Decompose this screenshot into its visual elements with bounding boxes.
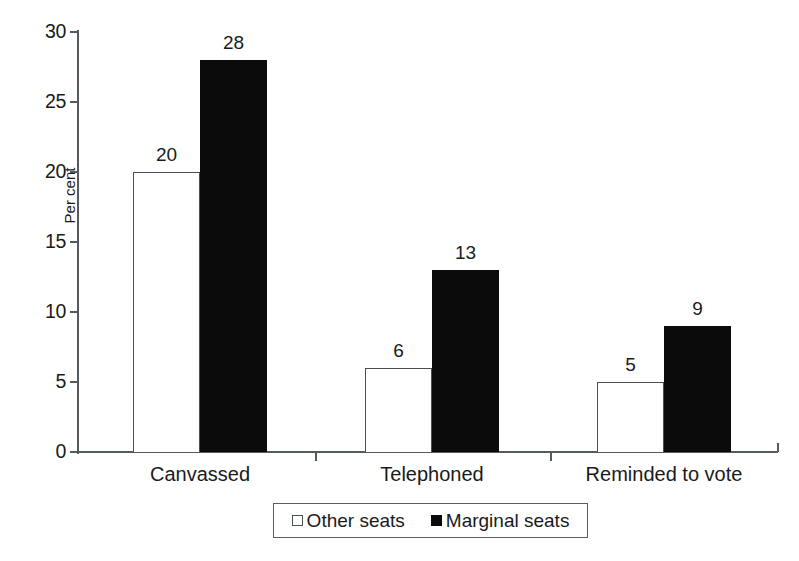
legend-label-other-seats: Other seats bbox=[307, 511, 405, 530]
bar-other-seats bbox=[365, 368, 432, 452]
chart-legend: Other seats Marginal seats bbox=[273, 503, 588, 538]
x-axis-category-label: Canvassed bbox=[70, 464, 330, 484]
y-axis-tick-label: 15 bbox=[26, 232, 66, 252]
y-axis-tick bbox=[70, 31, 78, 33]
y-axis-tick bbox=[70, 101, 78, 103]
y-axis-tick bbox=[70, 451, 78, 453]
legend-label-marginal-seats: Marginal seats bbox=[446, 511, 570, 530]
legend-item-other-seats: Other seats bbox=[292, 511, 405, 530]
y-axis-tick-label: 5 bbox=[26, 372, 66, 392]
y-axis-tick-label: 20 bbox=[26, 162, 66, 182]
y-axis-tick-label: 30 bbox=[26, 22, 66, 42]
y-axis-tick bbox=[70, 381, 78, 383]
open-square-marker-icon bbox=[292, 515, 303, 526]
x-axis-category-label: Telephoned bbox=[302, 464, 562, 484]
category-separator-tick bbox=[315, 452, 317, 461]
bar-value-label: 9 bbox=[654, 299, 741, 318]
bar-value-label: 6 bbox=[355, 341, 442, 360]
bar-other-seats bbox=[597, 382, 664, 452]
y-axis-tick bbox=[70, 171, 78, 173]
y-axis-tick-label: 0 bbox=[26, 442, 66, 462]
bar-marginal-seats bbox=[200, 60, 267, 452]
category-separator-tick bbox=[550, 452, 552, 461]
y-axis-tick-label: 10 bbox=[26, 302, 66, 322]
bar-value-label: 13 bbox=[422, 243, 509, 262]
y-axis-tick bbox=[70, 311, 78, 313]
y-axis-tick-label: 25 bbox=[26, 92, 66, 112]
x-axis-category-label: Reminded to vote bbox=[534, 464, 794, 484]
bar-chart: Per cent 051015202530 202861359 Canvasse… bbox=[0, 0, 799, 561]
bar-marginal-seats bbox=[432, 270, 499, 452]
x-axis-end-cap bbox=[777, 443, 779, 452]
bar-marginal-seats bbox=[664, 326, 731, 452]
y-axis-tick bbox=[70, 241, 78, 243]
filled-square-marker-icon bbox=[431, 515, 442, 526]
bar-value-label: 20 bbox=[123, 145, 210, 164]
legend-item-marginal-seats: Marginal seats bbox=[431, 511, 570, 530]
bar-value-label: 28 bbox=[190, 33, 277, 52]
bar-other-seats bbox=[133, 172, 200, 452]
bar-value-label: 5 bbox=[587, 355, 674, 374]
